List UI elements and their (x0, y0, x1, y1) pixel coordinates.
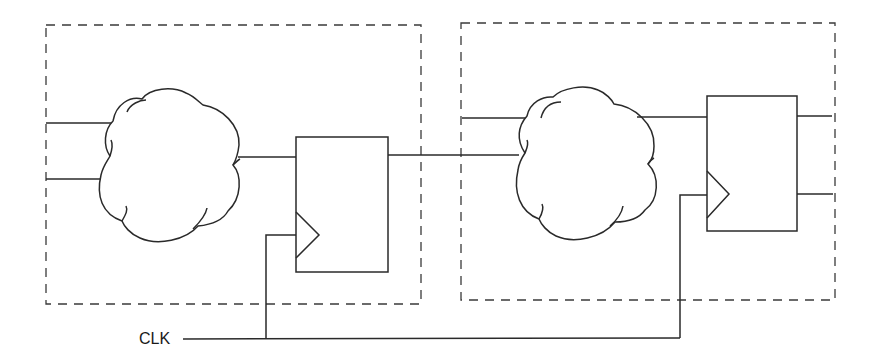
pipeline-diagram: CLK (0, 0, 877, 358)
clock-to-stage-1-wire (266, 235, 296, 339)
stage-2-flip-flop (707, 96, 797, 231)
combinational-logic-cloud-icon (516, 87, 656, 239)
stage-1-flip-flop (296, 137, 388, 272)
stage-1 (46, 89, 519, 272)
combinational-logic-cloud-icon (99, 89, 239, 242)
stage-2 (462, 87, 833, 239)
clock-to-stage-2-wire (680, 195, 707, 338)
clock-bus-wire (183, 338, 680, 339)
clock-label: CLK (139, 330, 170, 347)
